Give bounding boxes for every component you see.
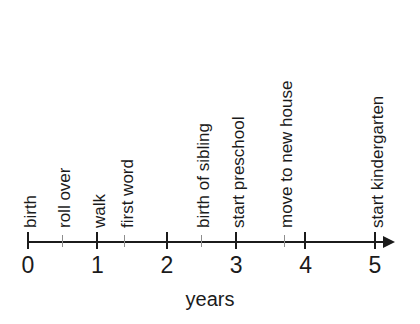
- timeline-event-label: birth: [22, 195, 39, 228]
- timeline-axis-line: [28, 241, 383, 243]
- axis-tick-label-4: 4: [286, 254, 326, 277]
- axis-tick-major-0: [27, 232, 29, 249]
- timeline-event-label: walk: [91, 194, 108, 228]
- axis-tick-major-1: [96, 232, 98, 249]
- axis-tick-label-3: 3: [216, 254, 256, 277]
- axis-tick-label-5: 5: [355, 254, 395, 277]
- axis-tick-minor-1-4: [124, 235, 125, 247]
- timeline-event-label: roll over: [56, 168, 73, 228]
- axis-tick-minor-3-7: [284, 235, 285, 247]
- timeline-figure: 012345 birthroll overwalkfirst wordbirth…: [0, 0, 420, 324]
- axis-arrow-icon: [383, 236, 395, 248]
- axis-tick-minor-2-5: [201, 235, 202, 247]
- axis-tick-minor-0-5: [62, 235, 63, 247]
- timeline-event-label: start preschool: [230, 117, 247, 229]
- axis-tick-label-2: 2: [147, 254, 187, 277]
- axis-title: years: [0, 289, 420, 309]
- axis-tick-major-4: [304, 232, 306, 249]
- timeline-event-label: start kindergarten: [369, 96, 386, 228]
- axis-tick-label-1: 1: [77, 254, 117, 277]
- timeline-event-label: first word: [119, 159, 136, 228]
- axis-tick-major-3: [235, 232, 237, 249]
- timeline-event-label: move to new house: [278, 81, 295, 228]
- axis-tick-major-2: [166, 232, 168, 249]
- axis-tick-label-0: 0: [8, 254, 48, 277]
- timeline-event-label: birth of sibling: [195, 123, 212, 228]
- axis-tick-major-5: [374, 232, 376, 249]
